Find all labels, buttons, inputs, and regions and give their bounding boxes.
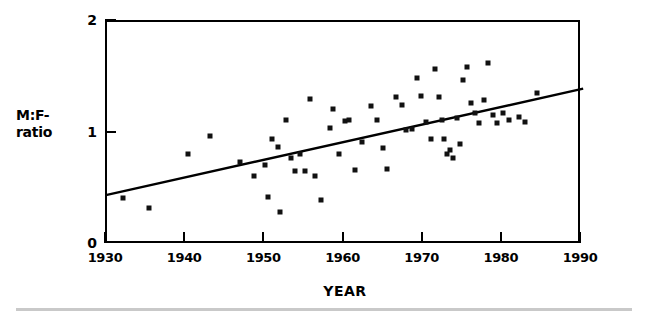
data-point	[414, 75, 419, 80]
data-point	[331, 106, 336, 111]
x-tick-1960	[342, 232, 344, 243]
x-tick-label-1940: 1940	[167, 250, 202, 265]
data-point	[469, 101, 474, 106]
data-point	[490, 112, 495, 117]
data-point	[318, 198, 323, 203]
x-tick-1990	[579, 232, 581, 243]
y-tick-1	[105, 131, 116, 133]
data-point	[399, 102, 404, 107]
data-point	[516, 114, 521, 119]
x-axis-title: YEAR	[323, 283, 366, 299]
data-point	[450, 156, 455, 161]
x-tick-1980	[500, 232, 502, 243]
x-tick-1970	[421, 232, 423, 243]
data-point	[302, 169, 307, 174]
data-point	[298, 151, 303, 156]
data-point	[385, 167, 390, 172]
x-tick-label-1980: 1980	[484, 250, 519, 265]
data-point	[307, 96, 312, 101]
x-tick-label-1970: 1970	[404, 250, 439, 265]
data-point	[288, 156, 293, 161]
data-point	[404, 128, 409, 133]
y-tick-label-0: 0	[87, 235, 97, 251]
data-point	[393, 94, 398, 99]
data-point	[432, 66, 437, 71]
trend-line	[107, 22, 582, 245]
x-tick-label-1990: 1990	[563, 250, 598, 265]
x-tick-label-1950: 1950	[246, 250, 281, 265]
scatter-plot-area	[107, 22, 578, 241]
data-point	[481, 98, 486, 103]
data-point	[359, 140, 364, 145]
data-point	[485, 61, 490, 66]
data-point	[347, 118, 352, 123]
data-point	[439, 118, 444, 123]
data-point	[436, 94, 441, 99]
data-point	[276, 144, 281, 149]
data-point	[495, 121, 500, 126]
data-point	[278, 209, 283, 214]
data-point	[380, 145, 385, 150]
footer-divider	[16, 308, 632, 311]
plot-frame	[105, 20, 580, 243]
x-tick-label-1960: 1960	[325, 250, 360, 265]
data-point	[523, 120, 528, 125]
data-point	[293, 169, 298, 174]
y-axis-title-line-1: M:F-	[16, 107, 52, 124]
data-point	[270, 137, 275, 142]
figure-panel: M:F- ratio 1930194019501960197019801990 …	[0, 0, 648, 315]
data-point	[534, 91, 539, 96]
data-point	[146, 206, 151, 211]
data-point	[263, 162, 268, 167]
data-point	[336, 151, 341, 156]
data-point	[507, 118, 512, 123]
data-point	[409, 127, 414, 132]
x-tick-1950	[262, 232, 264, 243]
data-point	[447, 148, 452, 153]
data-point	[500, 111, 505, 116]
data-point	[442, 137, 447, 142]
x-tick-1930	[104, 232, 106, 243]
data-point	[352, 168, 357, 173]
data-point	[252, 173, 257, 178]
data-point	[473, 111, 478, 116]
x-tick-1940	[183, 232, 185, 243]
data-point	[238, 160, 243, 165]
data-point	[328, 125, 333, 130]
data-point	[465, 64, 470, 69]
data-point	[207, 133, 212, 138]
y-tick-2	[105, 19, 116, 21]
data-point	[428, 137, 433, 142]
y-axis-title: M:F- ratio	[16, 107, 52, 141]
data-point	[313, 173, 318, 178]
x-tick-label-1930: 1930	[88, 250, 123, 265]
data-point	[374, 118, 379, 123]
data-point	[477, 121, 482, 126]
y-tick-label-2: 2	[87, 12, 97, 28]
data-point	[419, 93, 424, 98]
data-point	[283, 118, 288, 123]
y-axis-title-line-2: ratio	[16, 124, 52, 141]
y-tick-label-1: 1	[87, 124, 97, 140]
data-point	[454, 115, 459, 120]
data-point	[424, 120, 429, 125]
data-point	[185, 151, 190, 156]
data-point	[461, 77, 466, 82]
data-point	[458, 141, 463, 146]
data-point	[265, 195, 270, 200]
data-point	[120, 196, 125, 201]
data-point	[369, 103, 374, 108]
